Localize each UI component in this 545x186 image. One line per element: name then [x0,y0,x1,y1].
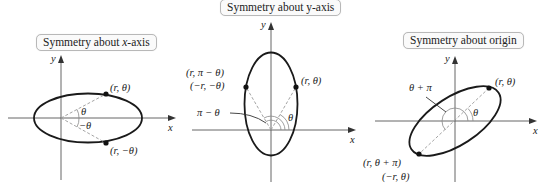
x-axis-label: x [349,134,355,145]
point-label-upper: (r, θ) [110,82,131,94]
point-label-lower: (r, −θ) [110,145,138,157]
angle-label-pi-minus-theta: π − θ [197,107,220,118]
x-axis-arrow-icon [348,127,356,133]
panel-x-axis-symmetry: Symmetry about x-axis (r, θ) (r, −θ) θ −… [0,0,180,186]
point-r-pi-minus-theta [243,84,248,89]
origin-symmetry-graph: (r, θ) θ + π θ (r, θ + π) (−r, θ) x y [360,0,545,186]
point-label-lower-line1: (r, θ + π) [363,157,401,169]
panel-origin-symmetry: Symmetry about origin (r, θ) θ + π θ (r,… [360,0,545,186]
point-label-right: (r, θ) [301,75,322,87]
point-r-neg-theta [103,140,108,145]
angle-label-neg-theta: −θ [79,120,91,131]
angle-label-theta: θ [81,106,86,117]
angle-label-theta: θ [288,112,293,123]
y-axis-label: y [260,19,266,30]
x-axis-label: x [532,125,538,136]
point-label-left-line1: (r, π − θ) [186,67,224,79]
panel-y-axis-symmetry: Symmetry about y-axis (r, θ) (r, π − θ) … [180,0,360,186]
point-label-left-line2: (−r, −θ) [190,80,225,92]
point-r-theta [103,91,108,96]
y-axis-symmetry-graph: (r, θ) (r, π − θ) (−r, −θ) π − θ θ x y [180,0,360,186]
y-axis-label: y [444,53,450,64]
x-axis-symmetry-graph: (r, θ) (r, −θ) θ −θ x y [0,0,180,186]
angle-arc-theta [77,110,79,119]
radius-left [246,87,271,130]
angle-label-theta: θ [473,107,478,118]
x-axis-arrow-icon [168,115,176,121]
point-label-upper: (r, θ) [495,76,516,88]
point-label-lower-line2: (−r, θ) [382,171,410,183]
y-axis-arrow-icon [58,55,64,63]
y-axis-label: y [50,53,56,64]
point-r-theta [486,85,491,90]
angle-leader-line [230,113,266,123]
y-axis-arrow-icon [452,56,458,64]
y-axis-arrow-icon [268,22,274,30]
x-axis-arrow-icon [529,118,537,124]
angle-label-theta-plus-pi: θ + π [409,82,432,93]
point-r-theta [293,84,298,89]
x-axis-label: x [167,122,173,133]
point-r-theta-plus-pi [416,151,421,156]
